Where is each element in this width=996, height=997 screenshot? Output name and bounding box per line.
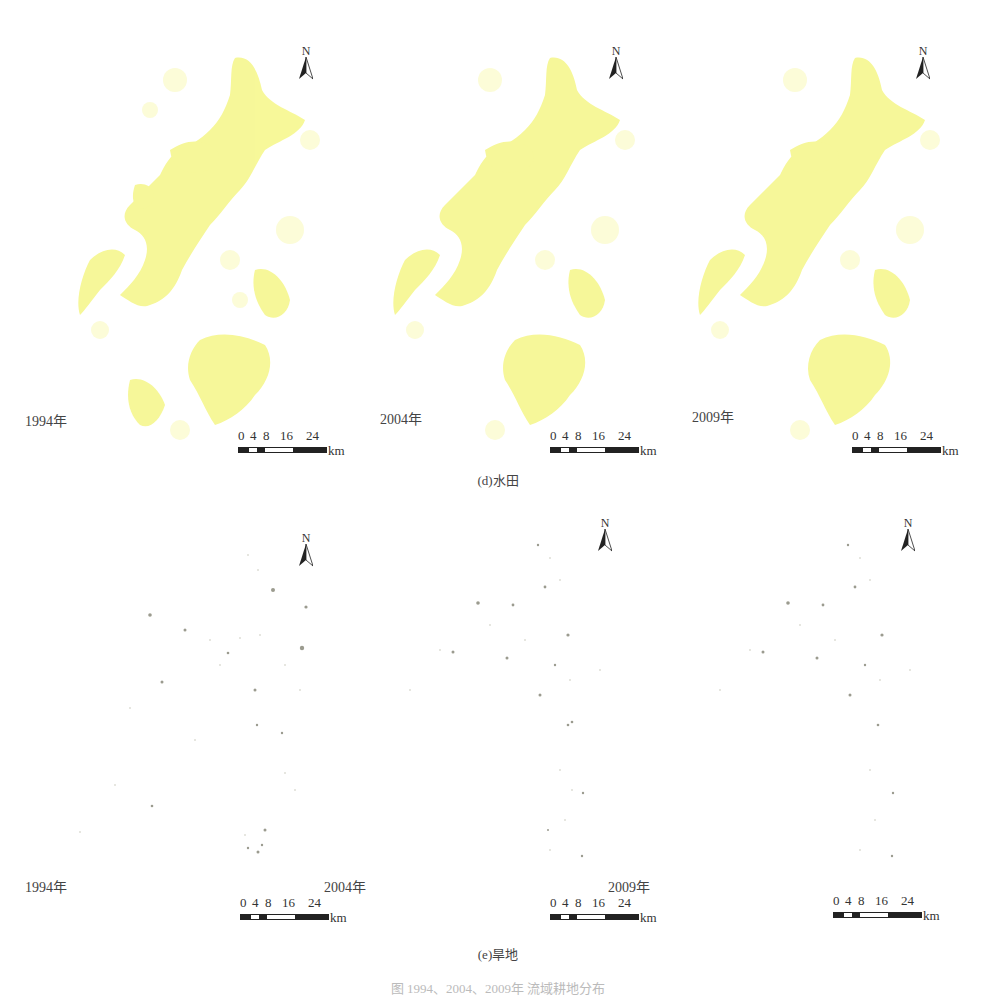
year-label: 2009年 xyxy=(692,406,734,426)
north-arrow-icon xyxy=(916,57,930,81)
year-label: 1994年 xyxy=(25,876,67,896)
north-label: N xyxy=(597,517,613,529)
map-panel-paddy-1994: N 1994年 0 4 8 16 24 km xyxy=(0,0,330,460)
north-arrow: N xyxy=(915,45,931,85)
scale-unit: km xyxy=(942,443,959,459)
map-panel-paddy-2004: N 2004年 0 4 8 16 24 km xyxy=(315,0,645,460)
map-panel-dryland-2009: N 2009年 0 4 8 16 24 km xyxy=(620,490,950,930)
figure-caption: 图 1994、2004、2009年 流域耕地分布 xyxy=(0,978,996,997)
scale-bar-graphic xyxy=(238,447,327,453)
dry-land-map xyxy=(310,490,640,930)
north-label: N xyxy=(915,45,931,57)
row-caption-dryland: (e)旱地 xyxy=(0,944,996,963)
map-panel-dryland-2004: N 2004年 0 4 8 16 24 km xyxy=(310,490,640,930)
scale-bar-graphic xyxy=(852,447,941,453)
scale-bar-graphic xyxy=(833,912,922,918)
paddy-field-map xyxy=(620,0,950,460)
paddy-field-map xyxy=(315,0,645,460)
north-arrow-icon xyxy=(299,57,313,81)
north-arrow: N xyxy=(597,517,613,557)
north-label: N xyxy=(900,517,916,529)
scale-bar: 0 4 8 16 24 km xyxy=(852,428,982,458)
north-arrow: N xyxy=(298,45,314,85)
map-panel-dryland-1994: N 1994年 0 4 8 16 24 km xyxy=(0,490,330,930)
year-label: 2004年 xyxy=(380,408,422,428)
year-label: 2004年 xyxy=(324,876,366,896)
north-arrow: N xyxy=(900,517,916,557)
map-panel-paddy-2009: N 2009年 0 4 8 16 24 km xyxy=(620,0,950,460)
row-caption-paddy: (d)水田 xyxy=(0,470,996,489)
scale-bar: 0 4 8 16 24 km xyxy=(833,893,963,923)
north-label: N xyxy=(298,45,314,57)
year-label: 2009年 xyxy=(608,876,650,896)
year-label: 1994年 xyxy=(25,410,67,430)
scale-unit: km xyxy=(923,908,940,924)
paddy-field-map xyxy=(0,0,330,460)
dry-land-map xyxy=(0,490,330,930)
north-arrow-icon xyxy=(598,529,612,553)
north-arrow-icon xyxy=(901,529,915,553)
